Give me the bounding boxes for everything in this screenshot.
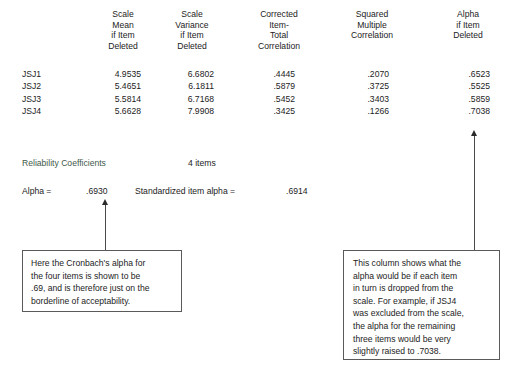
alpha-label: Alpha = <box>22 186 51 196</box>
table-cell: 6.1811 <box>173 80 214 92</box>
table-cell: 5.6628 <box>100 105 141 117</box>
table-cell: .5525 <box>453 80 490 92</box>
reliability-n-items: 4 items <box>188 158 216 168</box>
table-cell: .3725 <box>352 80 389 92</box>
table-cell: .5452 <box>258 93 295 105</box>
column-header-corrected-item-total-correlation: Corrected Item- Total Correlation <box>246 9 312 51</box>
column-header-squared-multiple-correlation: Squared Multiple Correlation <box>339 9 405 41</box>
column-header-scale-mean-if-item-deleted: Scale Mean if Item Deleted <box>100 9 146 51</box>
arrow-shaft <box>105 205 106 250</box>
spss-output-page: Scale Mean if Item Deleted Scale Varianc… <box>0 0 510 378</box>
table-cell: .5859 <box>453 93 490 105</box>
table-cell: 7.9908 <box>173 105 214 117</box>
table-cell: 6.6802 <box>173 68 214 80</box>
table-row-label: JSJ3 <box>22 93 41 105</box>
standardized-item-alpha-label: Standardized item alpha = <box>135 186 235 196</box>
table-column-squared-multiple-correlation: .2070 .3725 .3403 .1266 <box>352 68 389 117</box>
table-cell: .3425 <box>258 105 295 117</box>
table-row-label-column: JSJ1 JSJ2 JSJ3 JSJ4 <box>22 68 41 117</box>
table-cell: .1266 <box>352 105 389 117</box>
table-row-label: JSJ1 <box>22 68 41 80</box>
table-cell: .4445 <box>258 68 295 80</box>
callout-box-cronbach-alpha: Here the Cronbach's alpha for the four i… <box>22 250 182 312</box>
alpha-value: .6930 <box>86 186 108 196</box>
table-cell: 5.5814 <box>100 93 141 105</box>
callout-box-alpha-if-item-deleted: This column shows what the alpha would b… <box>343 250 500 360</box>
standardized-item-alpha-value: .6914 <box>286 186 308 196</box>
table-cell: 5.4651 <box>100 80 141 92</box>
table-cell: .2070 <box>352 68 389 80</box>
table-cell: .5879 <box>258 80 295 92</box>
table-cell: 6.7168 <box>173 93 214 105</box>
table-column-scale-variance-if-item-deleted: 6.6802 6.1811 6.7168 7.9908 <box>173 68 214 117</box>
table-column-scale-mean-if-item-deleted: 4.9535 5.4651 5.5814 5.6628 <box>100 68 141 117</box>
table-row-label: JSJ4 <box>22 105 41 117</box>
table-row-label: JSJ2 <box>22 80 41 92</box>
table-cell: .3403 <box>352 93 389 105</box>
table-column-alpha-if-item-deleted: .6523 .5525 .5859 .7038 <box>453 68 490 117</box>
table-cell: .6523 <box>453 68 490 80</box>
column-header-scale-variance-if-item-deleted: Scale Variance if Item Deleted <box>165 9 219 51</box>
table-cell: 4.9535 <box>100 68 141 80</box>
table-header-row: Scale Mean if Item Deleted Scale Varianc… <box>0 9 510 61</box>
arrow-shaft <box>474 136 475 250</box>
column-header-alpha-if-item-deleted: Alpha if Item Deleted <box>445 9 491 41</box>
reliability-coefficients-heading: Reliability Coefficients <box>22 158 106 168</box>
table-column-corrected-item-total-correlation: .4445 .5879 .5452 .3425 <box>258 68 295 117</box>
table-cell: .7038 <box>453 105 490 117</box>
